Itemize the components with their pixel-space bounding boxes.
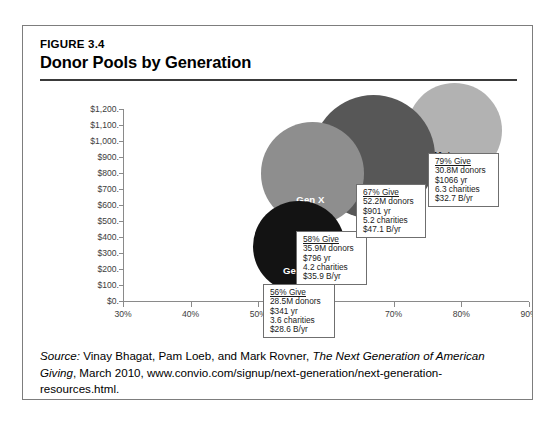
y-tick-mark	[119, 141, 124, 142]
callout-matures: 79% Give30.8M donors$1066 yr6.3 charitie…	[428, 153, 499, 207]
y-tick-mark	[119, 125, 124, 126]
bubble-chart: $0.$100.$200.$300.$400.$500.$600.$700.$8…	[23, 86, 533, 341]
x-tick-mark	[191, 302, 192, 307]
callout-gen-y: 56% Give28.5M donors$341 yr3.6 charities…	[263, 284, 335, 338]
source-authors: Vinay Bhagat, Pam Loeb, and Mark Rovner,	[80, 349, 312, 362]
callout-line-total: $32.7 B/yr	[435, 194, 493, 203]
figure-number: FIGURE 3.4	[40, 38, 105, 50]
x-tick-label: 30%	[103, 309, 143, 319]
x-tick-mark	[123, 302, 124, 307]
x-tick-label: 70%	[374, 309, 414, 319]
figure-container: FIGURE 3.4 Donor Pools by Generation $0.…	[22, 25, 533, 400]
x-tick-mark	[529, 302, 530, 307]
y-tick-mark	[119, 189, 124, 190]
x-tick-mark	[258, 302, 259, 307]
y-tick-mark	[119, 253, 124, 254]
source-rest: , March 2010, www.convio.com/signup/next…	[40, 366, 442, 396]
x-tick-label: 40%	[171, 309, 211, 319]
x-tick-mark	[394, 302, 395, 307]
source-prefix: Source:	[40, 349, 80, 362]
source-note: Source: Vinay Bhagat, Pam Loeb, and Mark…	[40, 348, 520, 398]
y-tick-mark	[119, 237, 124, 238]
y-tick-mark	[119, 109, 124, 110]
y-tick-mark	[119, 157, 124, 158]
callout-line-total: $47.1 B/yr	[363, 225, 420, 234]
callout-boomers: 67% Give52.2M donors$901 yr5.2 charities…	[356, 184, 426, 238]
x-tick-label: 80%	[441, 309, 481, 319]
y-tick-mark	[119, 221, 124, 222]
page-title: Donor Pools by Generation	[40, 53, 251, 72]
y-tick-mark	[119, 285, 124, 286]
title-divider	[40, 79, 517, 81]
x-tick-mark	[461, 302, 462, 307]
callout-gen-x: 58% Give35.9M donors$796 yr4.2 charities…	[296, 231, 367, 285]
y-tick-mark	[119, 205, 124, 206]
callout-line-total: $35.9 B/yr	[303, 272, 361, 281]
y-tick-mark	[119, 269, 124, 270]
y-tick-mark	[119, 173, 124, 174]
callout-line-total: $28.6 B/yr	[270, 325, 329, 334]
x-tick-label: 90%	[509, 309, 533, 319]
y-axis-line	[123, 110, 124, 302]
